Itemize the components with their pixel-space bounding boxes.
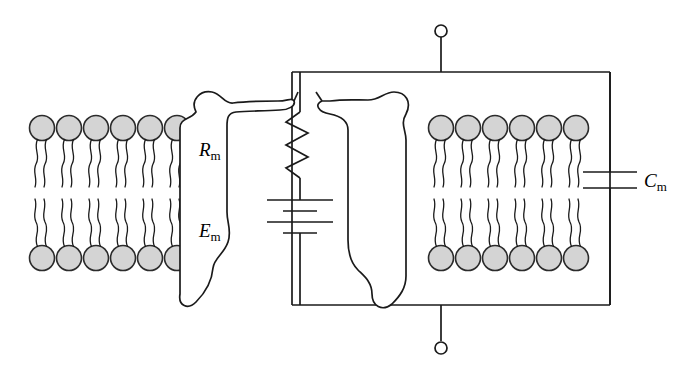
figure-canvas: Rm Em Cm xyxy=(0,0,681,380)
background xyxy=(0,0,681,380)
terminal-top[interactable] xyxy=(435,25,447,37)
terminal-bottom[interactable] xyxy=(435,342,447,354)
membrane-circuit-diagram: Rm Em Cm xyxy=(0,0,681,380)
